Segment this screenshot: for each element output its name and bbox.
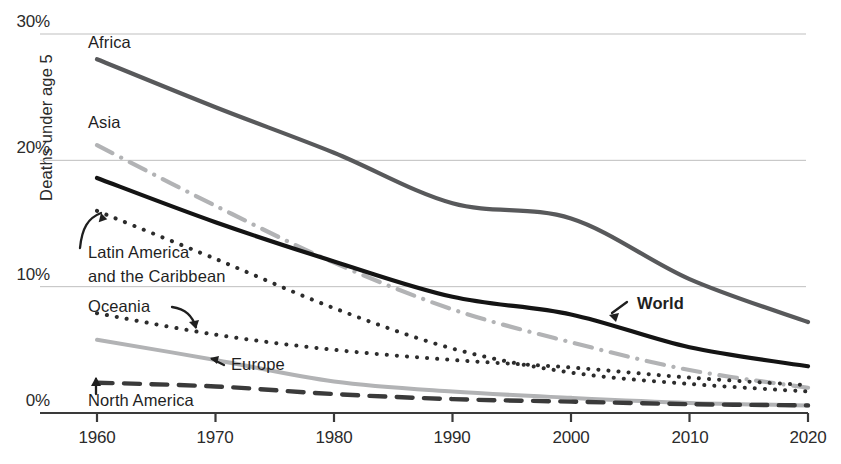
series-label-world: World: [637, 294, 684, 313]
series-label-north-america: North America: [88, 391, 194, 410]
series-line-latin-america-and-the-caribbean: [97, 211, 808, 392]
chart-root: Deaths under age 5 30% 20% 10% 0% 1960 1…: [0, 0, 841, 464]
series-label-europe: Europe: [231, 355, 285, 374]
x-axis: [40, 413, 808, 422]
series-label-latin-america-line1: Latin America: [88, 243, 189, 262]
series-label-africa: Africa: [88, 33, 131, 52]
series-label-oceania: Oceania: [88, 297, 150, 316]
series-label-latin-america-line2: and the Caribbean: [88, 267, 225, 286]
series-label-asia: Asia: [88, 113, 121, 132]
series-lines: [97, 59, 808, 405]
